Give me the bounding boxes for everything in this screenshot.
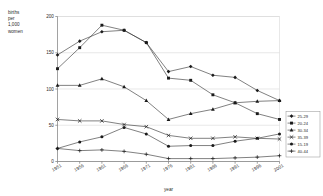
x-tick-label: 1966 <box>118 163 130 173</box>
legend-label: 35-39 <box>298 135 309 140</box>
data-point-marker <box>234 140 237 143</box>
data-point-marker <box>278 154 282 158</box>
data-point-marker <box>78 140 81 143</box>
legend-label: 30-34 <box>298 128 309 133</box>
data-point-marker <box>78 149 82 153</box>
series-40-44 <box>56 147 282 161</box>
x-tick-label: 1951 <box>51 163 63 173</box>
data-point-marker <box>290 143 293 146</box>
data-point-marker <box>211 73 215 77</box>
data-point-marker <box>255 155 259 159</box>
data-point-marker <box>278 118 281 121</box>
x-tick-label: 1996 <box>251 163 263 173</box>
y-axis-title-line: 1,000 <box>8 22 20 27</box>
y-axis-title-line: births <box>8 10 20 15</box>
data-point-marker <box>78 46 81 49</box>
data-point-marker <box>189 157 193 161</box>
data-point-marker <box>56 53 60 57</box>
data-point-marker <box>100 135 103 138</box>
data-point-marker <box>56 67 59 70</box>
legend-label: 40-44 <box>298 149 309 154</box>
legend-label: 25-29 <box>298 114 309 119</box>
data-point-marker <box>278 132 281 135</box>
y-tick-label: 50 <box>49 123 55 128</box>
data-point-marker <box>123 29 126 32</box>
series-35-39 <box>56 118 281 141</box>
data-point-marker <box>167 145 170 148</box>
y-tick-label: 0 <box>51 159 54 164</box>
y-axis-title-line: per <box>8 16 15 21</box>
data-point-marker <box>123 126 126 129</box>
legend-label: 20-24 <box>298 121 309 126</box>
y-axis-title-line: women <box>8 29 23 34</box>
chart-container: 050100150200 195119561961196619711976198… <box>0 0 323 196</box>
y-axis-title: birthsper1,000women <box>8 10 23 34</box>
y-tick-label: 200 <box>46 14 54 19</box>
data-point-marker <box>78 39 82 43</box>
legend-label: 15-19 <box>298 142 309 147</box>
data-point-marker <box>233 156 237 160</box>
x-tick-label: 1971 <box>140 163 152 173</box>
data-point-marker <box>100 30 104 34</box>
x-tick-label: 1986 <box>206 163 218 173</box>
series-line-35-39 <box>58 119 280 139</box>
data-point-marker <box>167 77 170 80</box>
x-axis-tick-labels: 1951195619611966197119761981198619911996… <box>51 162 285 173</box>
x-tick-label: 1956 <box>73 163 85 173</box>
data-series <box>56 24 282 161</box>
chart-legend: 25-2920-2430-3435-3915-1940-44 <box>286 112 320 158</box>
data-point-marker <box>100 77 104 80</box>
series-30-34 <box>56 77 282 121</box>
x-tick-label: 1976 <box>162 163 174 173</box>
y-tick-label: 100 <box>46 87 54 92</box>
x-tick-label: 2001 <box>273 163 285 173</box>
data-point-marker <box>145 41 148 44</box>
data-point-marker <box>189 144 192 147</box>
series-line-25-29 <box>58 30 280 100</box>
fertility-line-chart: 050100150200 195119561961196619711976198… <box>0 0 323 196</box>
x-tick-label: 1981 <box>184 163 196 173</box>
y-axis-tick-labels: 050100150200 <box>46 14 57 164</box>
x-tick-label: 1961 <box>95 163 107 173</box>
x-axis-title: year <box>164 187 173 192</box>
y-tick-label: 150 <box>46 50 54 55</box>
data-point-marker <box>100 24 103 27</box>
data-point-marker <box>256 112 259 115</box>
data-point-marker <box>145 132 148 135</box>
data-point-marker <box>211 93 214 96</box>
series-line-30-34 <box>58 79 280 120</box>
data-point-marker <box>100 148 104 152</box>
data-point-marker <box>290 122 293 125</box>
data-point-marker <box>144 152 148 156</box>
series-25-29 <box>56 28 282 102</box>
data-point-marker <box>56 147 60 151</box>
x-tick-label: 1991 <box>229 163 241 173</box>
data-point-marker <box>211 157 215 161</box>
data-point-marker <box>122 149 126 153</box>
data-point-marker <box>144 99 148 102</box>
data-point-marker <box>167 157 171 161</box>
data-point-marker <box>233 76 237 80</box>
data-point-marker <box>189 65 193 69</box>
x-axis-title: year <box>164 187 173 192</box>
data-point-marker <box>189 79 192 82</box>
data-point-marker <box>211 144 214 147</box>
data-point-marker <box>256 137 259 140</box>
